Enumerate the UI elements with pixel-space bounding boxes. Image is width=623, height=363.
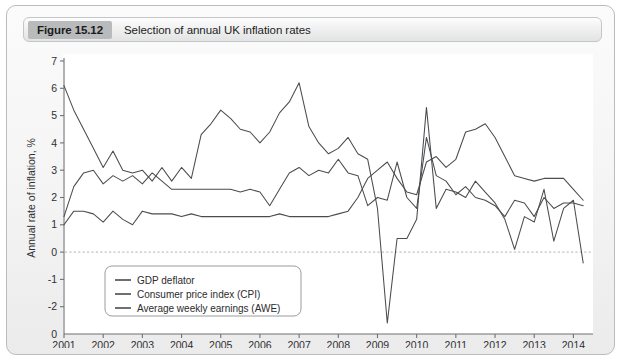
- x-tick-label: 2006: [248, 339, 272, 348]
- legend-item-label: Consumer price index (CPI): [137, 289, 260, 300]
- x-tick-label: 2005: [209, 339, 233, 348]
- x-tick-label: 2012: [483, 339, 507, 348]
- y-tick-label: 5: [51, 109, 57, 121]
- y-tick-label: -2: [48, 300, 57, 312]
- y-tick-label: 1: [51, 218, 57, 230]
- x-tick-label: 2002: [92, 339, 116, 348]
- y-tick-label: -1: [48, 273, 57, 285]
- y-axis-ticks: 76543210-1-20: [48, 55, 64, 340]
- y-axis-label: Annual rate of inflation, %: [25, 138, 37, 258]
- y-tick-label: 0: [51, 246, 57, 258]
- x-axis-ticks: 2001200220032004200520062007200820092010…: [52, 334, 585, 348]
- x-tick-label: 2007: [287, 339, 311, 348]
- y-tick-label: 3: [51, 164, 57, 176]
- x-tick-label: 2010: [405, 339, 429, 348]
- y-tick-label: 6: [51, 82, 57, 94]
- inflation-line-chart: 76543210-1-20 20012002200320042005200620…: [23, 48, 602, 348]
- figure-header-bar: Figure 15.12 Selection of annual UK infl…: [23, 17, 602, 42]
- x-tick-label: 2009: [366, 339, 390, 348]
- legend-item-label: Average weekly earnings (AWE): [137, 303, 280, 314]
- x-tick-label: 2013: [523, 339, 547, 348]
- y-tick-label: 7: [51, 55, 57, 67]
- legend-item-label: GDP deflator: [137, 275, 195, 286]
- x-tick-label: 2014: [562, 339, 586, 348]
- figure-card: Figure 15.12 Selection of annual UK infl…: [6, 5, 615, 355]
- figure-title: Selection of annual UK inflation rates: [124, 21, 311, 39]
- chart-plot-area: 76543210-1-20 20012002200320042005200620…: [23, 48, 602, 348]
- chart-legend: GDP deflatorConsumer price index (CPI)Av…: [105, 266, 301, 316]
- x-tick-label: 2001: [52, 339, 76, 348]
- x-tick-label: 2011: [445, 339, 468, 348]
- y-tick-label: 2: [51, 191, 57, 203]
- x-tick-label: 2008: [327, 339, 351, 348]
- figure-number-badge: Figure 15.12: [28, 21, 112, 39]
- x-tick-label: 2004: [170, 339, 194, 348]
- y-tick-label: 4: [51, 137, 57, 149]
- y-tick-label: 0: [51, 328, 57, 340]
- x-tick-label: 2003: [131, 339, 155, 348]
